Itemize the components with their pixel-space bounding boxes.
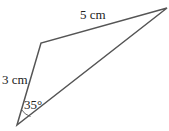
top-side-label: 5 cm [80,7,106,22]
angle-label: 35° [24,97,42,112]
left-side-label: 3 cm [2,72,28,87]
triangle-diagram: 5 cm 3 cm 35° [0,0,169,131]
